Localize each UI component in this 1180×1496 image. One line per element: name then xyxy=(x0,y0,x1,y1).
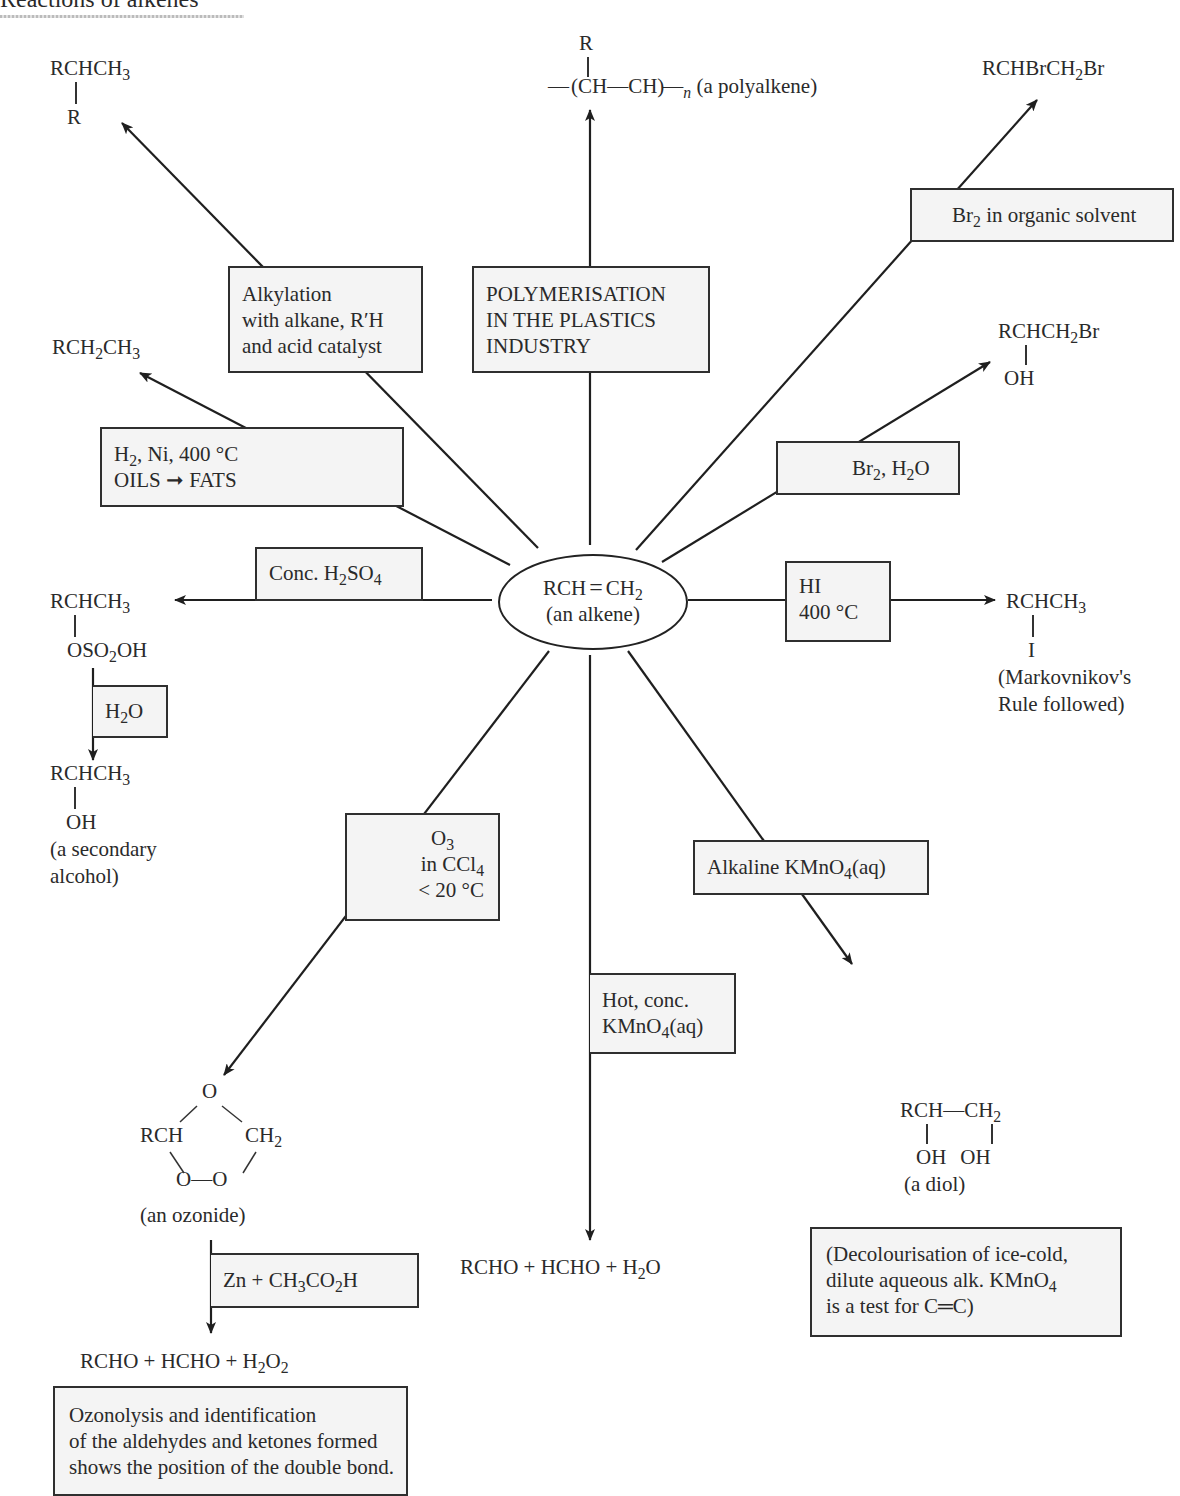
bond xyxy=(991,1124,993,1144)
bond xyxy=(74,615,76,637)
bond xyxy=(74,787,76,809)
product-ozonolysis: RCHO + HCHO + H2O2 xyxy=(80,1348,289,1375)
condition-polymerisation: POLYMERISATION IN THE PLASTICS INDUSTRY xyxy=(472,266,710,373)
condition-hi: HI 400 °C xyxy=(785,561,891,642)
condition-hot-kmno4: Hot, conc. KMnO4(aq) xyxy=(590,973,736,1054)
product-alkane: RCH2CH3 xyxy=(52,334,140,361)
bond xyxy=(1032,615,1034,637)
condition-alkylation: Alkylation with alkane, R′H and acid cat… xyxy=(228,266,423,373)
note-decolourisation: (Decolourisation of ice-cold, dilute aqu… xyxy=(810,1227,1122,1337)
product-diol: RCH—CH2 OHOH (a diol) xyxy=(900,1097,1001,1198)
bond xyxy=(1025,345,1027,365)
product-iodoalkane: RCHCH3 I (Markovnikov's Rule followed) xyxy=(998,588,1131,718)
arrow-alk-kmno4 xyxy=(628,651,852,964)
bond xyxy=(926,1124,928,1144)
product-alkyl-hydrogensulfate: RCHCH3 OSO2OH xyxy=(50,588,147,664)
alkene-formula: RCH=CH2 xyxy=(500,574,686,601)
condition-water: H2O xyxy=(93,685,168,738)
product-bromohydrin: RCHCH2Br OH xyxy=(998,318,1099,392)
condition-bromine-water: Br2, H2O xyxy=(776,441,960,495)
alkene-node: RCH=CH2 (an alkene) xyxy=(498,554,688,650)
bond xyxy=(75,82,77,104)
note-ozonolysis: Ozonolysis and identification of the ald… xyxy=(53,1386,408,1496)
condition-alkaline-kmno4: Alkaline KMnO4(aq) xyxy=(693,840,929,895)
condition-hydrogenation: H2, Ni, 400 °C OILS ➞ FATS xyxy=(100,427,404,507)
condition-ozone: O3 in CCl4 < 20 °C xyxy=(345,813,500,921)
alkene-caption: (an alkene) xyxy=(500,601,686,627)
ozonide-bonds xyxy=(140,1078,310,1198)
product-ozonide: O RCH CH2 O—O (an ozonide) xyxy=(140,1078,300,1228)
product-cleavage: RCHO + HCHO + H2O xyxy=(460,1254,661,1281)
condition-bromine-organic: Br2 in organic solvent xyxy=(910,188,1174,242)
product-secondary-alcohol: RCHCH3 OH (a secondary alcohol) xyxy=(50,760,157,890)
product-polymer: R —(CH—CH)—n (a polyalkene) xyxy=(548,30,817,100)
product-alkylation: RCHCH3 R xyxy=(50,55,130,131)
condition-sulfuric-acid: Conc. H2SO4 xyxy=(255,547,423,601)
condition-zinc-acid: Zn + CH3CO2H xyxy=(211,1253,419,1308)
product-dibromide: RCHBrCH2Br xyxy=(982,55,1104,82)
